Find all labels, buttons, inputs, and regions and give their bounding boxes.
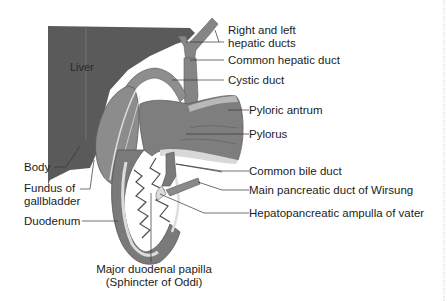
- label-cystic-duct: Cystic duct: [228, 74, 284, 87]
- common-bile-duct: [162, 152, 176, 186]
- hepatopancreatic-ampulla: [156, 186, 166, 200]
- label-right-left-hepatic-ducts-2: hepatic ducts: [228, 37, 296, 50]
- liver-label: Liver: [70, 61, 94, 73]
- label-common-bile-duct: Common bile duct: [249, 165, 342, 178]
- label-papilla-2: (Sphincter of Oddi): [95, 276, 213, 289]
- label-pyloric-antrum: Pyloric antrum: [249, 104, 323, 117]
- label-main-pancreatic-duct: Main pancreatic duct of Wirsung: [249, 184, 413, 197]
- label-duodenum: Duodenum: [24, 215, 80, 228]
- label-right-left-hepatic-ducts-1: Right and left: [228, 24, 296, 37]
- anatomy-diagram: [0, 0, 447, 301]
- label-body: Body: [24, 161, 50, 174]
- label-fundus-2: gallbladder: [24, 195, 80, 208]
- label-common-hepatic-duct: Common hepatic duct: [228, 54, 340, 67]
- label-hepatopancreatic-ampulla: Hepatopancreatic ampulla of vater: [249, 207, 424, 220]
- label-papilla-1: Major duodenal papilla: [95, 263, 213, 276]
- label-fundus-1: Fundus of: [24, 182, 75, 195]
- right-left-hepatic-ducts: [178, 18, 218, 62]
- label-pylorus: Pylorus: [249, 128, 287, 141]
